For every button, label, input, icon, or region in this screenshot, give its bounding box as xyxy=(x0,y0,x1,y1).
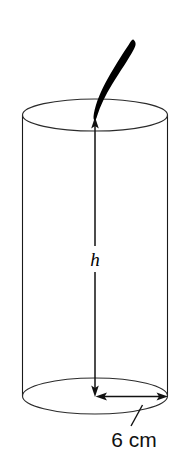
cylinder-figure: h 6 cm xyxy=(0,0,176,454)
cylinder-diagram-svg: h 6 cm xyxy=(0,0,176,454)
figure-background xyxy=(0,0,176,454)
height-label: h xyxy=(90,249,100,270)
diameter-label: 6 cm xyxy=(111,428,157,451)
